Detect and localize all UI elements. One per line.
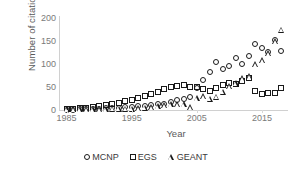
legend-item-egs[interactable]: EGS (130, 152, 157, 162)
y-tick-label: 150 (32, 36, 56, 46)
legend-label: MCNP (92, 152, 119, 162)
data-point-geant (103, 106, 109, 112)
citations-scatter-chart: Number of citations 050100150200 Year MC… (0, 0, 292, 186)
legend-label: GEANT (177, 152, 208, 162)
x-tick-label: 2005 (187, 113, 207, 123)
x-tick-label: 1995 (122, 113, 142, 123)
data-point-mcnp (213, 59, 219, 65)
data-point-egs (252, 88, 258, 94)
data-point-egs (207, 88, 213, 94)
data-point-egs (278, 85, 284, 91)
data-point-geant (226, 83, 232, 89)
legend-label: EGS (138, 152, 157, 162)
data-point-geant (142, 105, 148, 111)
data-point-egs (220, 82, 226, 88)
data-point-egs (259, 91, 265, 97)
data-point-geant (161, 102, 167, 108)
x-tick-label: 2015 (252, 113, 272, 123)
data-point-geant (194, 95, 200, 101)
x-axis-title: Year (60, 128, 292, 139)
data-point-geant (207, 96, 213, 102)
y-tick-label: 200 (32, 13, 56, 23)
y-axis-title-wrap: Number of citations (14, 14, 28, 110)
data-point-mcnp (233, 55, 239, 61)
data-point-geant (233, 80, 239, 86)
data-point-geant (77, 106, 83, 112)
data-point-egs (142, 93, 148, 99)
data-point-egs (161, 86, 167, 92)
data-point-mcnp (226, 63, 232, 69)
circle-marker-icon (84, 154, 90, 160)
data-point-geant (70, 106, 76, 112)
data-point-geant (109, 106, 115, 112)
y-tick-label: 50 (32, 82, 56, 92)
data-point-geant (246, 73, 252, 79)
data-point-mcnp (239, 61, 245, 67)
x-tick-label: 1985 (56, 113, 76, 123)
triangle-marker-icon (168, 154, 174, 160)
data-point-mcnp (220, 66, 226, 72)
legend-item-geant[interactable]: GEANT (168, 152, 208, 162)
data-point-geant (252, 61, 258, 67)
data-point-egs (148, 91, 154, 97)
data-point-geant (220, 89, 226, 95)
data-point-geant (122, 106, 128, 112)
data-point-geant (265, 50, 271, 56)
data-point-geant (148, 104, 154, 110)
data-point-geant (90, 106, 96, 112)
data-point-egs (187, 84, 193, 90)
data-point-egs (155, 89, 161, 95)
data-point-egs (129, 97, 135, 103)
data-point-geant (135, 105, 141, 111)
data-point-mcnp (252, 41, 258, 47)
data-point-geant (272, 38, 278, 44)
data-point-egs (135, 95, 141, 101)
y-tick-label: 100 (32, 59, 56, 69)
data-point-geant (116, 106, 122, 112)
data-point-geant (83, 106, 89, 112)
data-point-geant (174, 101, 180, 107)
data-point-geant (259, 57, 265, 63)
data-point-geant (239, 75, 245, 81)
y-tick-label: 0 (32, 105, 56, 115)
data-point-mcnp (259, 45, 265, 51)
data-point-egs (272, 90, 278, 96)
data-point-geant (181, 101, 187, 107)
data-point-mcnp (246, 53, 252, 59)
data-point-egs (213, 85, 219, 91)
data-point-egs (181, 82, 187, 88)
data-point-egs (122, 98, 128, 104)
legend-item-mcnp[interactable]: MCNP (84, 152, 119, 162)
data-point-geant (168, 101, 174, 107)
data-point-egs (200, 86, 206, 92)
data-point-mcnp (200, 77, 206, 83)
data-point-geant (278, 27, 284, 33)
data-point-geant (155, 103, 161, 109)
data-point-geant (96, 106, 102, 112)
data-point-geant (213, 94, 219, 100)
plot-area (60, 18, 288, 110)
data-point-egs (174, 83, 180, 89)
data-point-mcnp (207, 69, 213, 75)
data-point-egs (194, 84, 200, 90)
data-point-mcnp (278, 48, 284, 54)
data-point-egs (265, 90, 271, 96)
data-point-egs (168, 84, 174, 90)
chart-legend: MCNPEGSGEANT (0, 152, 292, 162)
data-point-geant (200, 93, 206, 99)
data-point-mcnp (187, 94, 193, 100)
data-point-geant (187, 104, 193, 110)
square-marker-icon (130, 154, 136, 160)
